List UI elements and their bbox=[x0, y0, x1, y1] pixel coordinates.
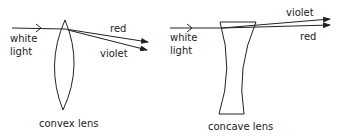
concave-lens-shape bbox=[219, 22, 256, 114]
convex-lens-shape bbox=[54, 20, 74, 110]
red-label: red bbox=[110, 23, 126, 34]
lens-dispersion-diagram: white light red violet convex lens white… bbox=[0, 0, 337, 139]
convex-lens-caption: convex lens bbox=[39, 118, 98, 129]
convex-lens-figure: white light red violet convex lens bbox=[10, 20, 148, 129]
white-label: white bbox=[10, 33, 37, 44]
white-light-ray bbox=[12, 28, 65, 29]
violet-label: violet bbox=[286, 7, 314, 18]
red-label: red bbox=[300, 31, 316, 42]
light-label: light bbox=[10, 46, 32, 57]
light-label: light bbox=[170, 45, 192, 56]
diagram-svg: white light red violet convex lens white… bbox=[0, 0, 337, 139]
white-label: white bbox=[170, 32, 197, 43]
violet-label: violet bbox=[100, 48, 128, 59]
concave-lens-figure: white light violet red concave lens bbox=[170, 7, 330, 132]
concave-lens-caption: concave lens bbox=[208, 121, 273, 132]
